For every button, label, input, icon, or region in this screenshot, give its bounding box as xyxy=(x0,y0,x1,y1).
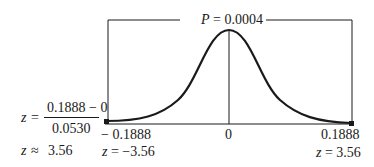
z-label-left: z = −3.56 xyxy=(102,145,155,159)
formula-lhs-var: z xyxy=(21,111,26,125)
formula-lhs-eq: = xyxy=(31,111,39,125)
formula-result-eq: ≈ xyxy=(31,144,39,158)
probability-label: P = 0.0004 xyxy=(198,13,266,27)
axis-label-left: − 0.1888 xyxy=(101,128,151,142)
tail-bracket-right xyxy=(263,20,352,122)
z-label-right: z = 3.56 xyxy=(316,146,361,160)
axis-label-right: 0.1888 xyxy=(321,128,360,142)
normal-curve-diagram xyxy=(0,0,374,167)
right-tail-marker xyxy=(349,121,354,126)
formula-result-value: 3.56 xyxy=(48,144,73,158)
left-tail-marker xyxy=(104,119,109,124)
probability-var: P xyxy=(201,12,210,27)
probability-value: = 0.0004 xyxy=(213,12,263,27)
z-var: z xyxy=(102,144,107,159)
formula-numerator: 0.1888 − 0 xyxy=(47,101,107,115)
fraction-bar xyxy=(44,117,99,118)
formula-result-var: z xyxy=(21,144,26,158)
z-var: z xyxy=(316,145,321,160)
z-right-value: = 3.56 xyxy=(325,145,361,160)
formula-denominator: 0.0530 xyxy=(52,122,91,136)
axis-label-center: 0 xyxy=(225,128,232,142)
z-left-value: = −3.56 xyxy=(111,144,155,159)
